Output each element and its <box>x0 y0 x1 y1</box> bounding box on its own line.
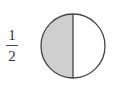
half-shaded-circle <box>0 0 127 86</box>
shaded-half <box>41 14 73 78</box>
unshaded-half <box>73 14 105 78</box>
